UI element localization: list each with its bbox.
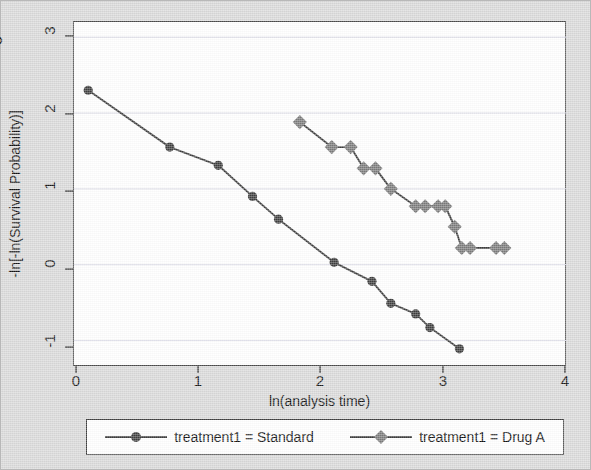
y-tick-label-2: 2 [42,105,57,125]
plot-area [73,21,566,366]
y-axis-title: -ln[-ln(Survival Probability)] [5,21,25,366]
x-tick-label-4: 4 [555,373,575,388]
series-line [88,90,459,349]
data-point-marker [214,161,223,170]
x-tick-label-3: 3 [433,373,453,388]
legend: treatment1 = Standard treatment1 = Drug … [86,419,564,455]
series-drug-a [293,115,512,255]
legend-key-diamond [350,430,412,444]
x-tick-label-0: 0 [66,373,86,388]
data-point-marker [344,140,358,154]
y-tick-label-3: 3 [42,27,57,47]
graph-figure: -ln[-ln(Survival Probability)] 3 3 2 1 0… [0,0,591,470]
legend-key-circle [105,430,167,444]
data-point-marker [418,199,432,213]
data-point-marker [384,182,398,196]
y-tick-label-1: 1 [42,182,57,202]
legend-entry-standard[interactable]: treatment1 = Standard [105,429,314,445]
y-tick-label-0: 0 [42,260,57,280]
legend-label-drug-a: treatment1 = Drug A [419,429,545,445]
data-point-marker [274,215,283,224]
data-point-marker [438,199,452,213]
data-point-marker [329,258,338,267]
data-point-marker [497,241,511,255]
series-line [300,122,505,248]
series-standard [84,86,464,354]
legend-label-standard: treatment1 = Standard [174,429,314,445]
x-axis-title: ln(analysis time) [73,393,566,409]
x-tick-label-1: 1 [188,373,208,388]
data-point-marker [367,277,376,286]
x-tick-label-2: 2 [310,373,330,388]
y-axis-title-label: -ln[-ln(Survival Probability)] [7,110,23,277]
y-tick-label-minus1: -1 [42,335,57,363]
data-point-marker [368,161,382,175]
data-point-marker [411,309,420,318]
legend-entry-drug-a[interactable]: treatment1 = Drug A [350,429,545,445]
data-point-marker [386,299,395,308]
data-point-marker [84,86,93,95]
data-point-marker [248,192,257,201]
data-point-marker [455,344,464,353]
data-point-marker [425,323,434,332]
gridlines [74,37,567,340]
data-point-marker [463,241,477,255]
y-tick-label: 3 [0,37,4,67]
data-series-layer [84,86,512,354]
data-point-marker [448,220,462,234]
data-point-marker [165,143,174,152]
plot-svg [74,22,567,367]
